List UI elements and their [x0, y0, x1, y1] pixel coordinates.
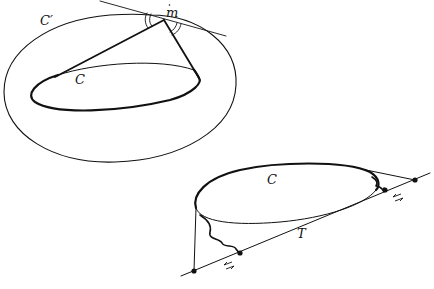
arrow-mark-left [224, 262, 234, 269]
drop-line-left [194, 208, 196, 271]
label-curve-c: C [267, 172, 277, 187]
point-m-dot-accent [169, 4, 171, 6]
label-tangent-t: T [297, 226, 307, 241]
curve-c-upper [195, 164, 378, 209]
cone-line-right [164, 20, 199, 78]
cone-line-left [55, 20, 164, 77]
label-point-m: m [166, 5, 178, 20]
label-outer-curve: C′ [40, 13, 53, 28]
tangent-line-m [100, 1, 226, 36]
arrow-mark-right [393, 194, 403, 201]
diagram-canvas: C′ C m C T [0, 0, 434, 289]
label-inner-curve: C [75, 72, 85, 87]
point-dot-left-wave [237, 250, 242, 255]
point-dot-right-wave [382, 187, 387, 192]
outer-curve-c-prime [4, 14, 236, 162]
wavy-curve-left [200, 215, 240, 253]
top-figure [4, 1, 236, 162]
tangent-line-t [181, 173, 430, 276]
bottom-figure [181, 164, 430, 277]
point-dot-left-bottom [191, 268, 196, 273]
curve-c-lower [196, 190, 376, 223]
point-dot-right-far [412, 177, 417, 182]
